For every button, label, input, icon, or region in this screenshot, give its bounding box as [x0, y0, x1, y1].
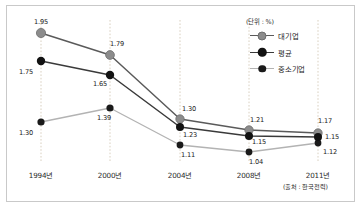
data-label-large-1994: 1.95: [34, 18, 48, 26]
data-label-average-2011: 1.15: [325, 133, 339, 141]
data-label-sme-1994: 1.30: [19, 129, 33, 137]
data-label-large-2008: 1.21: [250, 116, 264, 124]
legend-item-average: 평균: [250, 47, 305, 58]
data-label-average-2008: 1.15: [252, 138, 266, 146]
x-axis-tick-2008: 2008년: [237, 170, 261, 180]
legend-label-large-company: 대기업: [278, 30, 298, 41]
legend-label-average: 평균: [278, 47, 292, 58]
x-axis-tick-1994: 1994년: [29, 170, 53, 180]
chart-legend: 대기업 평균 중소기업: [250, 30, 305, 74]
chart-screenshot: 1.95 1.79 1.30 1.21 1.17 1.75 1.65 1.23 …: [0, 0, 362, 209]
data-label-large-2011: 1.17: [318, 117, 332, 125]
legend-item-sme: 중소기업: [250, 63, 305, 74]
data-label-sme-2004: 1.11: [181, 151, 195, 159]
x-axis-tick-2004: 2004년: [168, 170, 192, 180]
data-label-sme-2008: 1.04: [249, 158, 263, 166]
data-label-average-2004: 1.23: [183, 131, 197, 139]
data-label-sme-2011: 1.12: [323, 148, 337, 156]
legend-marker-large-company-icon: [250, 30, 274, 41]
plot-area: 1.95 1.79 1.30 1.21 1.17 1.75 1.65 1.23 …: [0, 0, 362, 209]
source-note: (출처 : 한국전력): [283, 182, 328, 191]
x-axis-tick-2011: 2011년: [306, 170, 330, 180]
legend-marker-sme-icon: [250, 63, 274, 74]
legend-item-large-company: 대기업: [250, 30, 305, 41]
data-label-large-2000: 1.79: [110, 40, 124, 48]
data-label-large-2004: 1.30: [182, 105, 196, 113]
legend-label-sme: 중소기업: [278, 63, 305, 74]
unit-note: (단위 : %): [246, 17, 274, 26]
data-label-sme-2000: 1.39: [97, 114, 111, 122]
data-label-average-1994: 1.75: [19, 68, 33, 76]
x-axis-tick-2000: 2000년: [98, 170, 122, 180]
legend-marker-average-icon: [250, 47, 274, 58]
data-label-average-2000: 1.65: [93, 80, 107, 88]
